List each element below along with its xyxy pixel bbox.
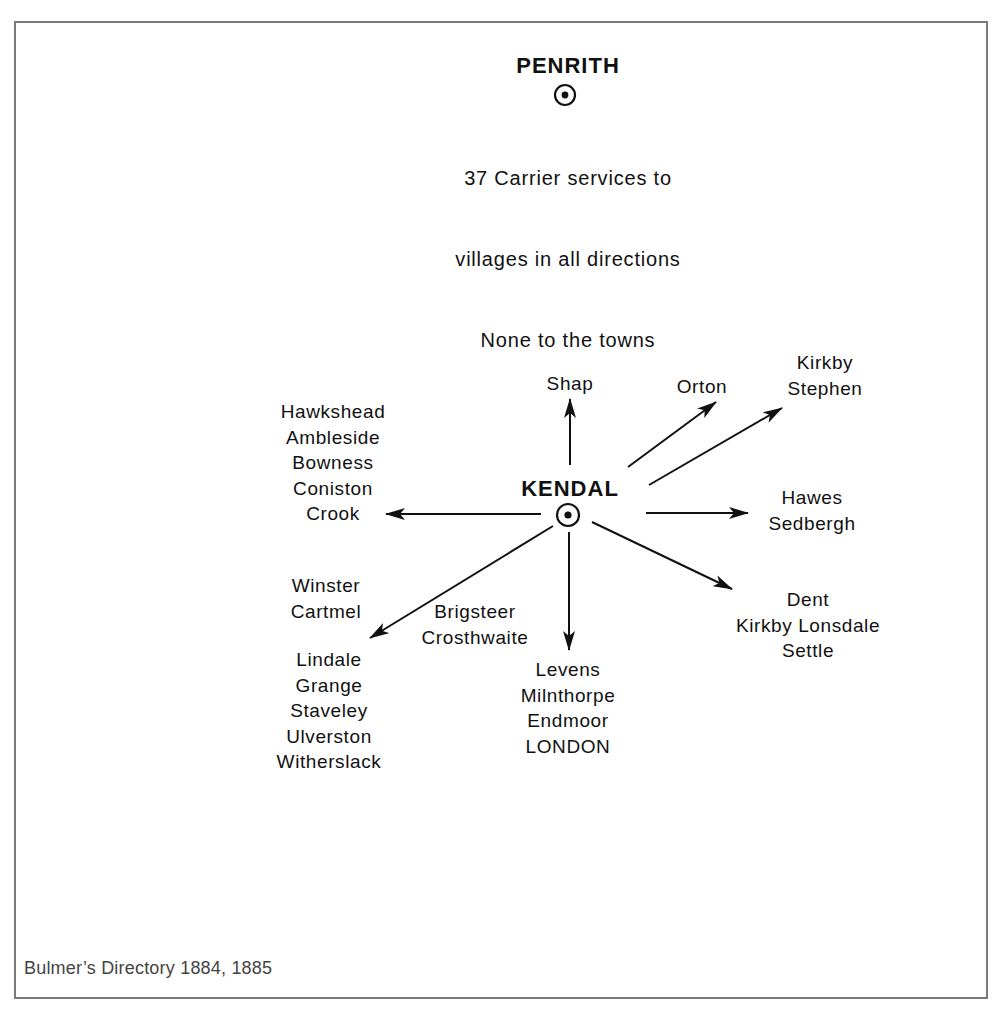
destination-hawes-sedbergh: Hawes Sedbergh (752, 485, 872, 536)
destination-levens-london: Levens Milnthorpe Endmoor LONDON (498, 657, 638, 759)
destination-lindale-witherslack: Lindale Grange Staveley Ulverston Wither… (254, 647, 404, 775)
destination-orton: Orton (652, 374, 752, 400)
penrith-town-symbol-icon (555, 85, 575, 105)
destination-dent-settle: Dent Kirkby Lonsdale Settle (700, 587, 916, 664)
destination-brigsteer-crosthwaite: Brigsteer Crosthwaite (400, 599, 550, 650)
arrow-north-east-far (649, 408, 782, 485)
destination-shap: Shap (520, 371, 620, 397)
destination-winster-cartmel: Winster Cartmel (268, 573, 384, 624)
source-caption: Bulmer’s Directory 1884, 1885 (24, 958, 272, 979)
kendal-town-symbol-icon (557, 504, 579, 526)
arrow-north-east (628, 402, 716, 467)
arrow-south-east (592, 522, 732, 589)
destination-hawkshead-crook: Hawkshead Ambleside Bowness Coniston Cro… (258, 399, 408, 527)
destination-kirkby-stephen: Kirkby Stephen (760, 350, 890, 401)
